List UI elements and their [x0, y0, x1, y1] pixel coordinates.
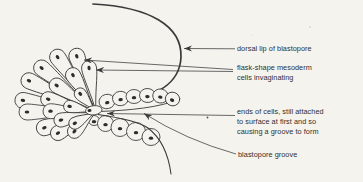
cell-nucleus — [149, 137, 153, 140]
leader-flask-cell-1 — [84, 60, 233, 70]
scan-speck — [309, 26, 311, 28]
label-flask-shape-mesoderm-cells: flask-shape mesoderm cells invaginating — [237, 63, 312, 83]
cell-nucleus — [92, 120, 96, 123]
dorsal-lip-curve — [93, 4, 181, 103]
leader-flask-cell-2 — [96, 70, 233, 72]
lower-cell-row — [89, 116, 161, 146]
upper-cell-row — [98, 88, 182, 110]
cell-nucleus — [132, 96, 136, 99]
scan-speck — [207, 117, 209, 119]
blastopore-line-drawing — [0, 0, 363, 182]
cell-nucleus — [25, 110, 30, 113]
cell-nucleus — [118, 127, 122, 130]
label-ends-of-cells: ends of cells, still attached to surface… — [237, 107, 324, 137]
diagram-canvas: dorsal lip of blastopore flask-shape mes… — [0, 0, 363, 182]
scan-speck — [251, 34, 252, 35]
leader-cell-ends — [107, 114, 235, 116]
cell-nucleus — [134, 131, 138, 134]
label-blastopore-groove: blastopore groove — [238, 150, 297, 160]
label-dorsal-lip-of-blastopore: dorsal lip of blastopore — [237, 44, 312, 54]
cell-nucleus — [103, 123, 107, 126]
